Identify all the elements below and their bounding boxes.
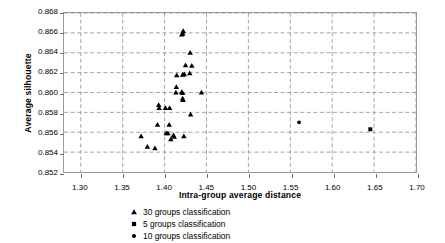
- series-3: [297, 120, 301, 124]
- x-tick-label-wrap: 1.45: [186, 176, 226, 194]
- tick-mark-y: [60, 94, 64, 95]
- y-tick-label: 0.856: [24, 129, 58, 137]
- y-tick-label: 0.860: [24, 89, 58, 97]
- data-point: [188, 112, 193, 117]
- y-tick-label: 0.864: [24, 48, 58, 56]
- y-tick-label: 0.868: [24, 8, 58, 16]
- tick-mark-x: [165, 174, 166, 178]
- x-tick-label: 1.55: [283, 183, 299, 192]
- circle-marker-icon: [128, 230, 140, 242]
- tick-mark-x: [81, 174, 82, 178]
- x-tick-label: 1.45: [198, 183, 214, 192]
- tick-mark-y: [60, 33, 64, 34]
- x-tick-label-wrap: 1.60: [313, 176, 353, 194]
- tick-mark-y: [60, 53, 64, 54]
- chart-legend: 30 groups classification5 groups classif…: [128, 206, 328, 242]
- data-point: [181, 134, 186, 139]
- x-tick-label: 1.35: [114, 183, 130, 192]
- data-point: [174, 72, 179, 77]
- legend-label: 30 groups classification: [143, 206, 230, 218]
- data-point: [368, 127, 372, 131]
- data-point: [187, 50, 192, 55]
- data-point: [152, 145, 157, 150]
- x-tick-label: 1.70: [409, 183, 425, 192]
- x-tick-label-wrap: 1.65: [355, 176, 395, 194]
- tick-mark-x: [123, 174, 124, 178]
- series-2: [368, 127, 372, 131]
- legend-label: 5 groups classification: [143, 218, 225, 230]
- data-point: [138, 134, 143, 139]
- data-point: [297, 120, 301, 124]
- tick-mark-x: [376, 174, 377, 178]
- tick-mark-x: [249, 174, 250, 178]
- x-tick-label: 1.40: [156, 183, 172, 192]
- x-tick-label-wrap: 1.50: [228, 176, 268, 194]
- tick-mark-x: [292, 174, 293, 178]
- tick-mark-x: [207, 174, 208, 178]
- x-tick-label-wrap: 1.30: [60, 176, 100, 194]
- data-point: [173, 90, 178, 95]
- y-tick-label: 0.862: [24, 68, 58, 76]
- y-tick-label: 0.866: [24, 28, 58, 36]
- x-tick-label: 1.50: [241, 183, 257, 192]
- y-tick-label: 0.852: [24, 169, 58, 177]
- data-point: [199, 90, 204, 95]
- x-tick-label: 1.30: [72, 183, 88, 192]
- data-point: [155, 122, 160, 127]
- y-tick-label: 0.854: [24, 149, 58, 157]
- series-1: [138, 28, 204, 150]
- data-point: [187, 70, 192, 75]
- legend-label: 10 groups classification: [143, 230, 230, 242]
- x-tick-label-wrap: 1.70: [397, 176, 437, 194]
- tick-mark-y: [60, 114, 64, 115]
- data-point: [145, 144, 150, 149]
- data-point: [189, 63, 194, 68]
- tick-mark-y: [60, 154, 64, 155]
- tick-mark-x: [334, 174, 335, 178]
- data-point: [166, 122, 171, 127]
- tick-mark-x: [418, 174, 419, 178]
- legend-item-1: 30 groups classification: [128, 206, 328, 218]
- data-point: [183, 62, 188, 67]
- x-tick-label: 1.65: [367, 183, 383, 192]
- plot-area: [63, 12, 417, 173]
- x-tick-label: 1.60: [325, 183, 341, 192]
- scatter-chart: Average silhouette Intra-group average d…: [0, 0, 445, 243]
- data-point: [167, 105, 172, 110]
- legend-item-2: 5 groups classification: [128, 218, 328, 230]
- data-point: [174, 84, 179, 89]
- triangle-marker-icon: [128, 206, 140, 218]
- tick-mark-y: [60, 73, 64, 74]
- x-tick-label-wrap: 1.35: [102, 176, 142, 194]
- tick-mark-y: [60, 134, 64, 135]
- data-points-layer: [64, 13, 416, 172]
- y-tick-label: 0.858: [24, 109, 58, 117]
- x-tick-label-wrap: 1.40: [144, 176, 184, 194]
- x-tick-label-wrap: 1.55: [271, 176, 311, 194]
- legend-item-3: 10 groups classification: [128, 230, 328, 242]
- tick-mark-y: [60, 174, 64, 175]
- square-marker-icon: [128, 218, 140, 230]
- tick-mark-y: [60, 13, 64, 14]
